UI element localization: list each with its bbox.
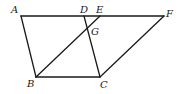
label-D: D: [79, 4, 88, 15]
segment-AB: [21, 16, 36, 77]
label-C: C: [100, 79, 108, 90]
geometry-diagram: A D E F G B C: [0, 0, 183, 94]
label-A: A: [10, 4, 18, 15]
label-F: F: [165, 8, 174, 19]
label-B: B: [26, 78, 34, 89]
label-E: E: [95, 4, 104, 15]
label-G: G: [91, 26, 99, 37]
segment-CF: [100, 16, 164, 77]
